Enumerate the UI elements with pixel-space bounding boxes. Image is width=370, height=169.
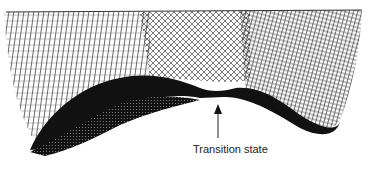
surface-back-middle xyxy=(140,10,250,82)
potential-energy-surface xyxy=(0,0,370,169)
arrow-icon xyxy=(214,104,222,138)
transition-state-label: Transition state xyxy=(193,143,268,155)
surface-back-right xyxy=(240,10,362,128)
